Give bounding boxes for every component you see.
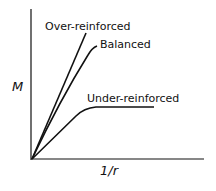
y-axis-label: M (12, 79, 23, 94)
label-under-reinforced: Under-reinforced (87, 93, 179, 104)
x-axis-label: 1/r (100, 163, 118, 178)
label-balanced: Balanced (100, 39, 151, 50)
over-reinforced-curve (32, 33, 86, 159)
label-over-reinforced: Over-reinforced (45, 21, 130, 32)
